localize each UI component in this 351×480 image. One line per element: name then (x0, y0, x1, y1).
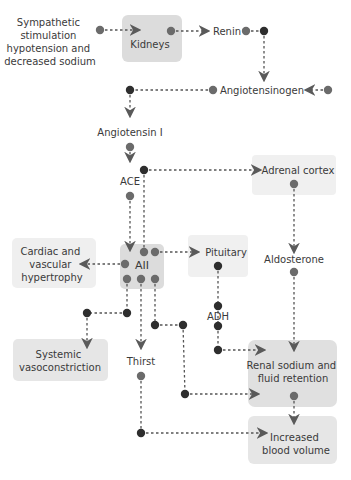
pituitary-label: Pituitary (205, 247, 247, 258)
raas-diagram: Sympathetic stimulation hypotension and … (0, 0, 351, 480)
cardiac-label: Cardiac and vascular hypertrophy (21, 246, 84, 283)
ace-label: ACE (120, 176, 140, 187)
angiotensinogen-label: Angiotensinogen (220, 85, 304, 96)
aldosterone-label: Aldosterone (264, 254, 324, 265)
adrenal-cortex-label: Adrenal cortex (261, 165, 334, 176)
stimulus-label: Sympathetic stimulation hypotension and … (4, 17, 96, 67)
systemic-box (13, 339, 108, 381)
adh-label: ADH (207, 311, 229, 322)
renin-label: Renin (213, 26, 241, 37)
aii-label: AII (135, 259, 149, 272)
thirst-label: Thirst (126, 356, 156, 367)
kidneys-label: Kidneys (130, 39, 169, 50)
angiotensin-i-label: Angiotensin I (97, 127, 162, 138)
